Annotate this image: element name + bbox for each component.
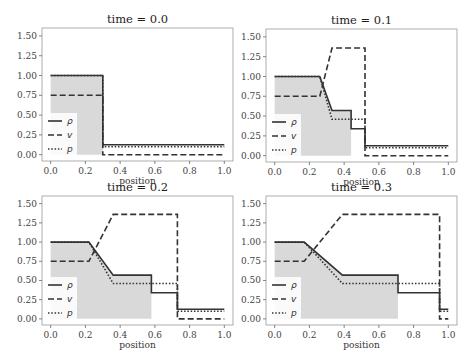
y-tick-label: 0.75: [17, 90, 37, 100]
legend: ρvp: [269, 277, 301, 322]
y-tick-label: 0.00: [241, 151, 261, 161]
y-tick-label: 1.25: [241, 52, 261, 62]
y-tick-label: 0.25: [241, 295, 261, 305]
x-tick-label: 0.6: [372, 167, 387, 177]
legend: ρvp: [45, 113, 77, 158]
legend-label-v: v: [67, 294, 73, 304]
panel-title: time = 0.0: [107, 12, 168, 26]
x-tick-label: 0.8: [406, 330, 421, 340]
y-tick-label: 0.00: [17, 314, 37, 324]
legend-label-rho: ρ: [291, 117, 297, 127]
x-tick-label: 0.4: [337, 167, 352, 177]
legend-label-rho: ρ: [67, 116, 73, 126]
x-tick-label: 0.4: [337, 330, 352, 340]
legend-label-p: p: [290, 308, 297, 318]
y-tick-label: 1.50: [241, 199, 261, 209]
x-tick-label: 0.0: [44, 166, 59, 176]
y-tick-label: 1.00: [17, 71, 37, 81]
legend-label-rho: ρ: [67, 280, 73, 290]
panel-3: 0.000.250.500.751.001.251.500.00.20.40.6…: [241, 180, 457, 350]
figure: 0.000.250.500.751.001.251.500.00.20.40.6…: [0, 0, 474, 360]
legend-label-p: p: [66, 144, 73, 154]
panel-1: 0.000.250.500.751.001.251.500.00.20.40.6…: [241, 13, 457, 187]
x-tick-label: 0.6: [372, 330, 387, 340]
x-tick-label: 0.6: [148, 166, 163, 176]
y-tick-label: 0.75: [241, 91, 261, 101]
x-tick-label: 1.0: [217, 166, 232, 176]
y-tick-label: 1.25: [17, 218, 37, 228]
y-tick-label: 0.75: [17, 256, 37, 266]
legend: ρvp: [45, 277, 77, 322]
panel-2: 0.000.250.500.751.001.251.500.00.20.40.6…: [17, 180, 233, 350]
x-tick-label: 1.0: [441, 330, 456, 340]
y-tick-label: 0.25: [17, 295, 37, 305]
x-tick-label: 0.6: [148, 330, 163, 340]
y-tick-label: 1.25: [241, 218, 261, 228]
y-tick-label: 0.50: [17, 110, 37, 120]
x-tick-label: 0.4: [113, 166, 128, 176]
legend-label-p: p: [290, 145, 297, 155]
legend-label-v: v: [291, 131, 297, 141]
x-axis-label: position: [119, 340, 156, 350]
panel-title: time = 0.3: [331, 180, 392, 194]
x-tick-label: 0.2: [78, 166, 92, 176]
y-tick-label: 0.00: [241, 314, 261, 324]
legend-label-v: v: [291, 294, 297, 304]
x-tick-label: 0.8: [406, 167, 421, 177]
y-tick-label: 1.50: [17, 31, 37, 41]
y-tick-label: 1.00: [241, 237, 261, 247]
x-tick-label: 1.0: [217, 330, 232, 340]
legend-label-v: v: [67, 130, 73, 140]
y-tick-label: 0.75: [241, 256, 261, 266]
x-tick-label: 0.2: [302, 330, 316, 340]
x-tick-label: 1.0: [441, 167, 456, 177]
y-tick-label: 0.25: [241, 131, 261, 141]
legend: ρvp: [269, 114, 301, 159]
x-tick-label: 0.8: [182, 330, 197, 340]
x-tick-label: 0.8: [182, 166, 197, 176]
legend-label-rho: ρ: [291, 280, 297, 290]
panel-0: 0.000.250.500.751.001.251.500.00.20.40.6…: [17, 12, 233, 186]
y-tick-label: 0.25: [17, 130, 37, 140]
y-tick-label: 0.00: [17, 150, 37, 160]
y-tick-label: 1.50: [241, 32, 261, 42]
y-tick-label: 1.00: [17, 237, 37, 247]
panel-title: time = 0.2: [107, 180, 168, 194]
x-tick-label: 0.0: [268, 330, 283, 340]
x-tick-label: 0.2: [302, 167, 316, 177]
x-tick-label: 0.4: [113, 330, 128, 340]
x-tick-label: 0.0: [268, 167, 283, 177]
y-tick-label: 0.50: [17, 275, 37, 285]
y-tick-label: 1.25: [17, 51, 37, 61]
y-tick-label: 0.50: [241, 111, 261, 121]
x-axis-label: position: [343, 340, 380, 350]
panel-title: time = 0.1: [331, 13, 392, 27]
x-tick-label: 0.2: [78, 330, 92, 340]
legend-label-p: p: [66, 308, 73, 318]
y-tick-label: 1.00: [241, 72, 261, 82]
y-tick-label: 1.50: [17, 199, 37, 209]
y-tick-label: 0.50: [241, 275, 261, 285]
x-tick-label: 0.0: [44, 330, 59, 340]
